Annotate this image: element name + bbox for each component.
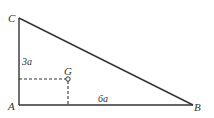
vertex-label-a: A: [7, 100, 15, 112]
centroid-label-g: G: [64, 65, 72, 77]
side-cb: [19, 18, 193, 105]
vertex-label-c: C: [8, 12, 16, 24]
centroid-projections: [19, 79, 68, 105]
side-label-ac: 3a: [21, 56, 32, 67]
vertex-label-b: B: [194, 101, 201, 113]
side-label-ab: 6a: [98, 93, 108, 104]
triangle: [19, 18, 193, 105]
centroid-point: [66, 77, 70, 81]
triangle-diagram: C A B G 3a 6a: [0, 0, 214, 118]
